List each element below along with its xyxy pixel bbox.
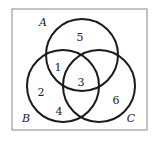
region-value: 5 — [77, 31, 84, 44]
region-value: 2 — [38, 86, 45, 99]
region-value: 3 — [78, 76, 85, 89]
region-value: 1 — [55, 61, 62, 74]
region-value: 6 — [113, 94, 120, 107]
set-label-b: B — [21, 112, 30, 125]
region-value: 4 — [56, 105, 63, 118]
set-label-a: A — [38, 16, 47, 29]
set-label-c: C — [127, 112, 136, 125]
venn-diagram: ABC 513246 — [0, 0, 157, 141]
